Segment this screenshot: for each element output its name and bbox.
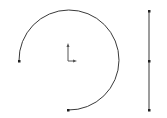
origin-icon [67, 43, 78, 63]
line-end-point[interactable] [148, 109, 151, 112]
arc-end-point[interactable] [67, 109, 70, 112]
arc-start-point[interactable] [18, 60, 21, 63]
line-mid-point[interactable] [148, 60, 151, 63]
line-start-point[interactable] [148, 10, 151, 13]
sketch-canvas[interactable] [0, 0, 167, 118]
sketch-line[interactable] [148, 10, 151, 112]
